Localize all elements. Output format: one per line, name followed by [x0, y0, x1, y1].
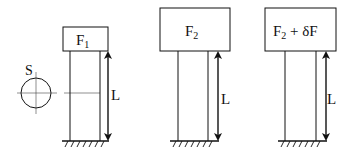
panel-1: F1 L	[62, 27, 120, 147]
panel-3: F2 + δF L	[265, 8, 336, 147]
column-buckling-diagram: S F1 L F2 L	[0, 0, 354, 157]
length-label: L	[327, 91, 336, 107]
length-label: L	[221, 91, 230, 107]
ground-hatch-icon	[173, 141, 212, 147]
ground-hatch-icon	[65, 141, 104, 147]
cross-section-label: S	[25, 63, 33, 78]
length-label: L	[111, 87, 120, 103]
load-label: F2 + δF	[273, 23, 318, 41]
cross-section: S	[17, 63, 100, 114]
panel-2: F2 L	[160, 8, 230, 147]
ground-hatch-icon	[281, 141, 320, 147]
